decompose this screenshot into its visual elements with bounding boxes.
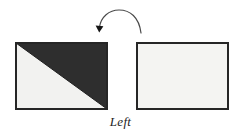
rotation-arrow-head: [96, 26, 104, 33]
right-rectangle-group: [137, 43, 228, 109]
rotation-arrow-group: [96, 10, 141, 33]
left-rectangle-group: [16, 43, 107, 109]
right-rectangle-fill: [137, 43, 228, 109]
figure-container: Left: [0, 0, 241, 136]
figure-caption: Left: [0, 114, 241, 130]
rotation-arrow-curve: [100, 10, 142, 33]
